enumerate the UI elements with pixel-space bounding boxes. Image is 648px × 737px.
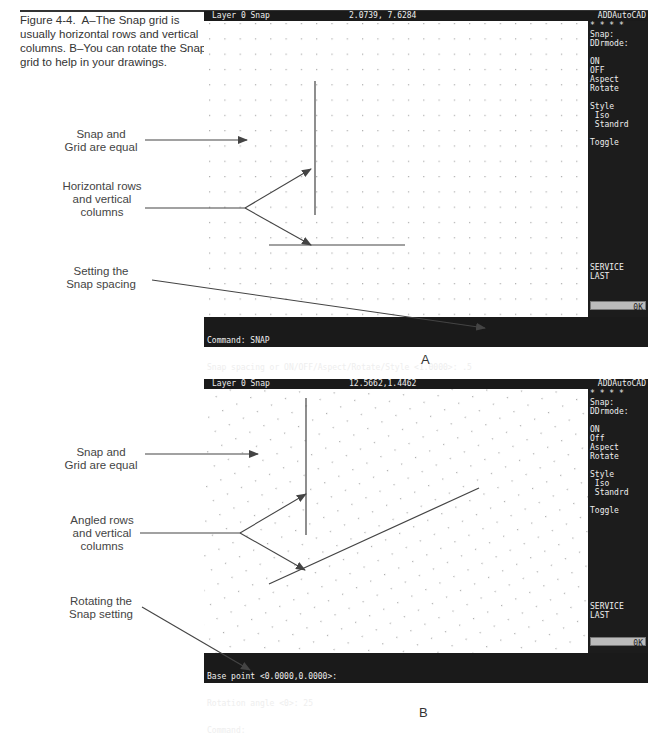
- menu-item-snap[interactable]: Snap:: [588, 30, 648, 39]
- menu-item-service[interactable]: SERVICE: [588, 602, 624, 611]
- coordinate-display: 2.0739, 7.6284: [349, 11, 416, 21]
- callout-rotating-snap: Rotating the Snap setting: [46, 595, 156, 621]
- callout-setting-snap-spacing: Setting the Snap spacing: [46, 265, 156, 291]
- callout-snap-grid-equal-a: Snap and Grid are equal: [46, 128, 156, 154]
- menu-item-style[interactable]: Style: [588, 470, 648, 479]
- panel-label-b: B: [419, 705, 428, 720]
- callout-angled-rows: Angled rows and vertical columns: [42, 514, 162, 553]
- menu-item-toggle[interactable]: Toggle: [588, 138, 648, 147]
- drawing-area-b[interactable]: [204, 379, 648, 696]
- menu-item-on[interactable]: ON: [588, 425, 648, 434]
- command-line[interactable]: Command: SNAP Snap spacing or ON/OFF/Asp…: [204, 317, 648, 347]
- ok-button[interactable]: 0K: [590, 301, 646, 310]
- panel-label-a: A: [421, 352, 430, 367]
- menu-item-iso[interactable]: Iso: [588, 479, 648, 488]
- menu-item-last[interactable]: LAST: [588, 272, 609, 281]
- autocad-screen-b: Layer 0 Snap 12.5662,1.4462 ADDAutoCAD *…: [204, 379, 648, 696]
- app-title: ADDAutoCAD: [598, 11, 646, 21]
- menu-item-snap[interactable]: Snap:: [588, 398, 648, 407]
- menu-item-on[interactable]: ON: [588, 57, 648, 66]
- status-bar: Layer 0 Snap 2.0739, 7.6284 ADDAutoCAD: [204, 11, 648, 21]
- menu-item-service[interactable]: SERVICE: [588, 263, 624, 272]
- layer-indicator: Layer 0 Snap: [212, 11, 270, 21]
- menu-item-toggle[interactable]: Toggle: [588, 506, 648, 515]
- menu-item-ddrmode[interactable]: DDrmode:: [588, 407, 648, 416]
- screen-menu: * * * * Snap: DDrmode: ON Off Aspect Rot…: [588, 389, 648, 653]
- command-line[interactable]: Base point <0.0000,0.0000>: Rotation ang…: [204, 653, 648, 683]
- app-title: ADDAutoCAD: [598, 379, 646, 389]
- callout-snap-grid-equal-b: Snap and Grid are equal: [46, 446, 156, 472]
- menu-item-rotate[interactable]: Rotate: [588, 452, 648, 461]
- menu-item-rotate[interactable]: Rotate: [588, 84, 648, 93]
- layer-indicator: Layer 0 Snap: [212, 379, 270, 389]
- menu-item-off[interactable]: Off: [588, 434, 648, 443]
- menu-item-aspect[interactable]: Aspect: [588, 75, 648, 84]
- status-bar: Layer 0 Snap 12.5662,1.4462 ADDAutoCAD: [204, 379, 648, 389]
- autocad-screen-a: Layer 0 Snap 2.0739, 7.6284 ADDAutoCAD *…: [204, 11, 648, 341]
- figure-caption: Figure 4-4.A–The Snap grid is usually ho…: [20, 13, 210, 69]
- menu-item-ddrmode[interactable]: DDrmode:: [588, 39, 648, 48]
- figure-number: Figure 4-4.: [20, 14, 76, 26]
- screen-menu: * * * * Snap: DDrmode: ON OFF Aspect Rot…: [588, 21, 648, 317]
- command-history-line: Base point <0.0000,0.0000>:: [207, 672, 645, 681]
- coordinate-display: 12.5662,1.4462: [349, 379, 416, 389]
- drawing-area-a[interactable]: [204, 11, 648, 341]
- menu-item-style[interactable]: Style: [588, 102, 648, 111]
- menu-item[interactable]: * * * *: [588, 21, 648, 30]
- command-prompt[interactable]: Command:: [207, 726, 645, 735]
- menu-item-iso[interactable]: Iso: [588, 111, 648, 120]
- ok-button[interactable]: 0K: [590, 637, 646, 646]
- menu-item[interactable]: * * * *: [588, 389, 648, 398]
- menu-item-standard[interactable]: Standrd: [588, 488, 648, 497]
- callout-horizontal-rows: Horizontal rows and vertical columns: [42, 180, 162, 219]
- command-history-line: Command: SNAP: [207, 336, 645, 345]
- menu-item-off[interactable]: OFF: [588, 66, 648, 75]
- menu-item-last[interactable]: LAST: [588, 611, 609, 620]
- menu-item-aspect[interactable]: Aspect: [588, 443, 648, 452]
- menu-item-standard[interactable]: Standrd: [588, 120, 648, 129]
